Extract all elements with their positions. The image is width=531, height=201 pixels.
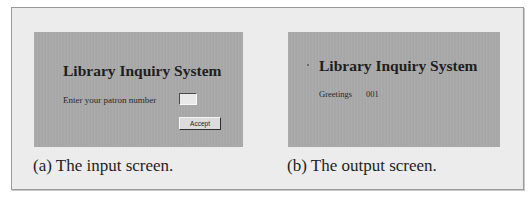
patron-number-input[interactable] [179, 93, 197, 105]
greeting-row: Greetings001 [319, 89, 379, 99]
screen-title: Library Inquiry System [63, 62, 221, 80]
bullet-dot-icon [307, 64, 309, 66]
output-screen: Library Inquiry System Greetings001 [288, 32, 500, 147]
patron-number-value: 001 [366, 89, 379, 99]
input-screen: Library Inquiry System Enter your patron… [34, 32, 243, 147]
caption-output-screen: (b) The output screen. [287, 156, 437, 176]
accept-button[interactable]: Accept [179, 117, 221, 130]
screen-title: Library Inquiry System [319, 57, 477, 75]
patron-number-label: Enter your patron number [63, 95, 156, 105]
greeting-label: Greetings [319, 89, 352, 99]
caption-input-screen: (a) The input screen. [33, 156, 173, 176]
